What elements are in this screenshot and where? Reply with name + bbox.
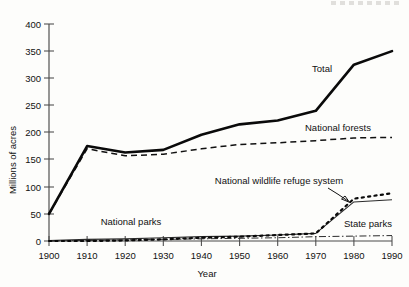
x-tick-1980: 1980 [343, 250, 364, 261]
x-tick-1940: 1940 [191, 250, 212, 261]
line-chart: 0 50 100 150 200 250 300 350 400 Million… [0, 0, 409, 287]
x-tick-1960: 1960 [267, 250, 288, 261]
x-tick-1900: 1900 [38, 250, 59, 261]
y-tick-400: 400 [25, 19, 41, 30]
y-axis-tick-labels: 0 50 100 150 200 250 300 350 400 [25, 19, 41, 247]
y-axis-title: Millions of acres [7, 126, 18, 194]
x-axis-title: Year [197, 268, 216, 279]
x-tick-1930: 1930 [153, 250, 174, 261]
x-tick-1950: 1950 [229, 250, 250, 261]
y-tick-300: 300 [25, 73, 41, 84]
x-axis-tick-labels: 1900 1910 1920 1930 1940 1950 1960 1970 … [38, 250, 402, 261]
scan-artifact [331, 1, 403, 5]
chart-container: 0 50 100 150 200 250 300 350 400 Million… [0, 0, 409, 287]
x-tick-1920: 1920 [115, 250, 136, 261]
x-tick-1970: 1970 [305, 250, 326, 261]
y-tick-150: 150 [25, 154, 41, 165]
refuge-leader-arrow [328, 188, 350, 202]
national-parks-label: National parks [101, 216, 162, 227]
y-tick-50: 50 [30, 209, 41, 220]
x-tick-1990: 1990 [381, 250, 402, 261]
total-label: Total [312, 63, 332, 74]
y-tick-0: 0 [36, 236, 41, 247]
x-tick-1910: 1910 [77, 250, 98, 261]
national-forests-label: National forests [305, 122, 371, 133]
y-tick-350: 350 [25, 46, 41, 57]
y-tick-250: 250 [25, 100, 41, 111]
state-parks-label: State parks [344, 218, 392, 229]
y-tick-200: 200 [25, 127, 41, 138]
y-tick-100: 100 [25, 182, 41, 193]
refuge-label: National wildlife refuge system [215, 175, 343, 186]
